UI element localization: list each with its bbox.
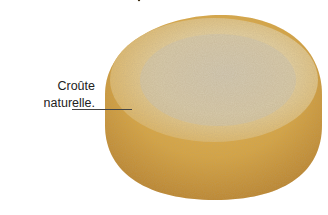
leader-line xyxy=(72,109,132,110)
rind-label-line1: Croûte xyxy=(0,78,95,95)
illustration: Croûte naturelle. xyxy=(0,0,328,215)
rind-label: Croûte naturelle. xyxy=(0,78,95,112)
